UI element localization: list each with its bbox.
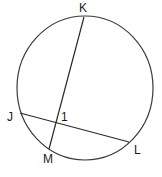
diagram-canvas: K J L M 1 bbox=[0, 0, 162, 177]
point-label-k: K bbox=[79, 1, 87, 15]
point-label-j: J bbox=[7, 110, 13, 124]
angle-label-1: 1 bbox=[61, 110, 68, 124]
point-label-m: M bbox=[43, 152, 53, 166]
point-label-l: L bbox=[134, 143, 141, 157]
circle bbox=[17, 16, 153, 160]
circle-diagram: K J L M 1 bbox=[0, 0, 162, 177]
